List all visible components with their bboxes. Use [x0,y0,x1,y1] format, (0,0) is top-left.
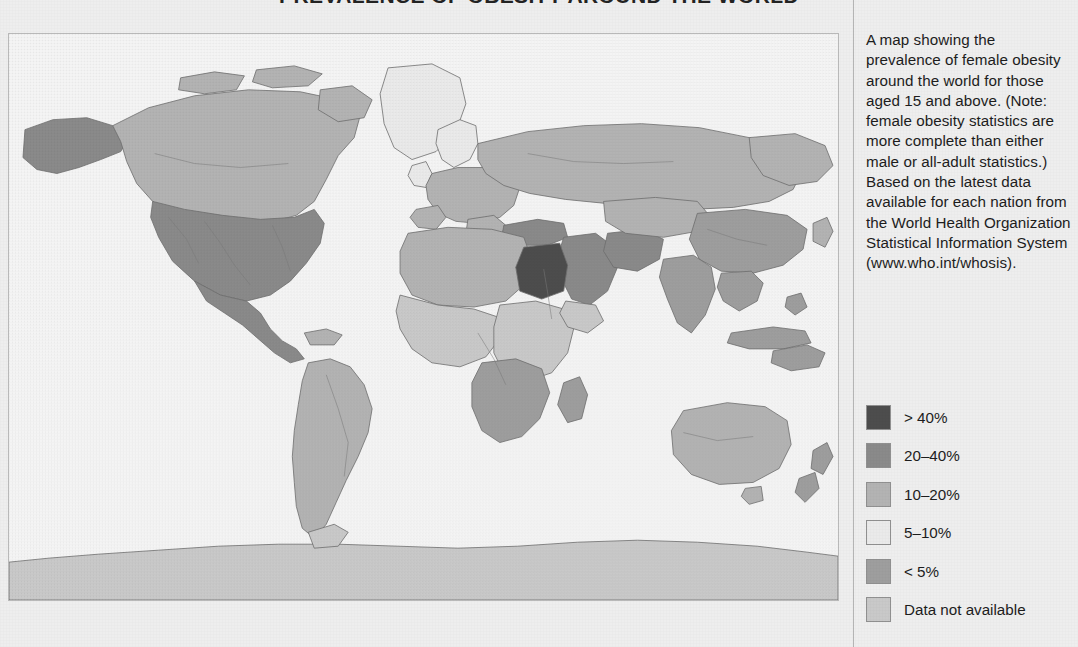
legend-swatch-over-40 [866,405,891,430]
legend-item-5-10: 5–10% [866,514,1072,553]
side-column: A map showing the prevalence of female o… [866,30,1072,274]
map-legend: > 40% 20–40% 10–20% 5–10% < 5% Data not … [866,398,1072,629]
legend-swatch-10-20 [866,482,891,507]
legend-label-10-20: 10–20% [904,486,960,503]
page-title: PREVALENCE OF OBESITY AROUND THE WORLD [0,0,1078,8]
legend-item-no-data: Data not available [866,591,1072,630]
column-divider [853,0,854,647]
legend-label-over-40: > 40% [904,409,948,426]
legend-item-over-40: > 40% [866,398,1072,437]
legend-label-under-5: < 5% [904,563,939,580]
legend-label-no-data: Data not available [904,601,1026,618]
legend-swatch-no-data [866,597,891,622]
legend-swatch-20-40 [866,443,891,468]
map-grain-overlay [9,34,838,600]
world-map-panel [8,33,839,601]
legend-item-under-5: < 5% [866,552,1072,591]
legend-swatch-5-10 [866,520,891,545]
legend-label-5-10: 5–10% [904,524,951,541]
world-map-graphic [9,34,838,600]
legend-item-20-40: 20–40% [866,437,1072,476]
map-description: A map showing the prevalence of female o… [866,30,1072,274]
legend-item-10-20: 10–20% [866,475,1072,514]
legend-swatch-under-5 [866,559,891,584]
legend-label-20-40: 20–40% [904,447,960,464]
